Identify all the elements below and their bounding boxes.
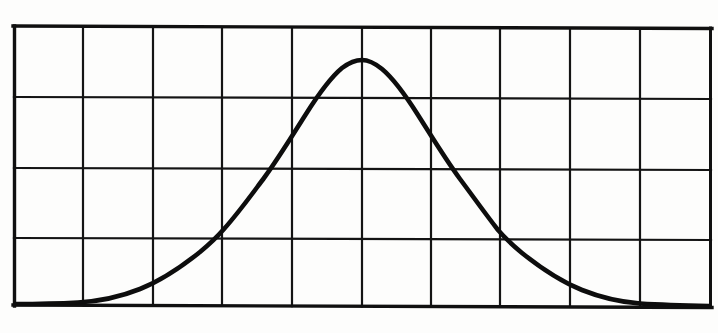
chart-background <box>0 0 718 333</box>
chart-canvas <box>0 0 718 333</box>
bell-curve-figure: Bell-shaped normal distribution curve on… <box>0 0 718 333</box>
